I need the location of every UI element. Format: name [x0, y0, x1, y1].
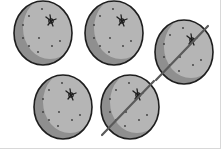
- orange-2: [85, 0, 148, 65]
- orange-4: [34, 71, 97, 139]
- orange-1: [14, 0, 77, 65]
- oranges-illustration: [0, 0, 221, 149]
- orange-5: [101, 71, 164, 139]
- orange-3: [155, 16, 218, 84]
